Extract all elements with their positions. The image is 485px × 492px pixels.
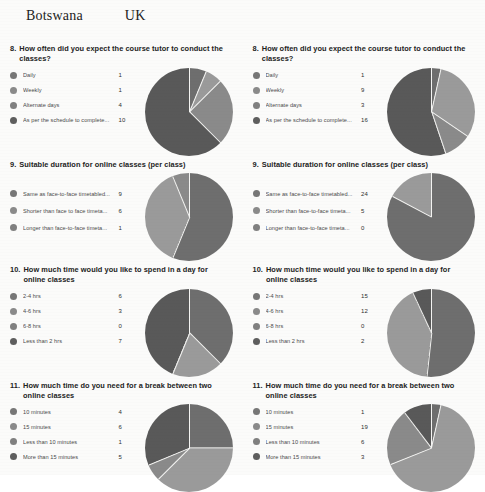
- legend-item: Shorter than face-to-face timeta...5: [253, 202, 384, 219]
- pie-chart: [387, 173, 475, 261]
- pie-slice-divider: [189, 289, 190, 333]
- question-number: 8.: [253, 44, 259, 64]
- pie-chart-container: [383, 171, 479, 261]
- question-cell-botswana: 9.Suitable duration for online classes (…: [0, 156, 243, 262]
- legend-item: 10 minutes1: [253, 404, 384, 419]
- question-row: 8.How often did you expect the course tu…: [0, 40, 485, 156]
- pie-chart: [145, 404, 233, 492]
- question-title: 9.Suitable duration for online classes (…: [10, 160, 237, 170]
- legend-bullet-icon: [253, 102, 260, 109]
- legend-item: Weekly1: [10, 83, 141, 98]
- legend-bullet-icon: [253, 207, 260, 214]
- legend-item: Longer than face-to-face timeta...1: [10, 219, 141, 236]
- question-body: Same as face-to-face timetabled...9Short…: [10, 171, 237, 261]
- legend-item: 6-8 hrs0: [10, 319, 141, 334]
- legend-value: 1: [357, 409, 383, 415]
- pie-slice-divider: [426, 333, 432, 377]
- legend-label: Alternate days: [23, 102, 115, 108]
- legend-bullet-icon: [10, 453, 17, 460]
- legend-item: Longer than face-to-face timeta...0: [253, 219, 384, 236]
- legend-value: 16: [357, 117, 383, 123]
- question-row: 11.How much time do you need for a break…: [0, 377, 485, 492]
- legend-value: 3: [357, 454, 383, 460]
- pie-chart-container: [383, 66, 479, 156]
- legend-value: 3: [357, 102, 383, 108]
- legend-item: 10 minutes4: [10, 404, 141, 419]
- legend-value: 1: [357, 72, 383, 78]
- question-cell-botswana: 10.How much time would you like to spend…: [0, 261, 243, 377]
- legend-label: 2-4 hrs: [266, 293, 358, 299]
- question-body: Daily1Weekly9Alternate days3As per the s…: [253, 66, 480, 156]
- chart-legend: 10 minutes115 minutes19Less than 10 minu…: [253, 402, 384, 464]
- pie-slice-divider: [189, 71, 207, 112]
- question-text: Suitable duration for online classes (pe…: [262, 160, 428, 170]
- pie-chart: [387, 404, 475, 492]
- legend-value: 5: [115, 454, 141, 460]
- question-cell-botswana: 8.How often did you expect the course tu…: [0, 40, 243, 156]
- legend-value: 6: [115, 208, 141, 214]
- legend-value: 19: [357, 424, 383, 430]
- question-text: Suitable duration for online classes (pe…: [19, 160, 185, 170]
- pie-slice-divider: [431, 68, 442, 111]
- legend-bullet-icon: [253, 72, 260, 79]
- legend-bullet-icon: [10, 323, 17, 330]
- legend-value: 0: [357, 225, 383, 231]
- pie-chart-container: [141, 66, 237, 156]
- legend-label: Less than 2 hrs: [23, 338, 115, 344]
- pie-chart: [145, 68, 233, 156]
- legend-item: 4-6 hrs12: [253, 304, 384, 319]
- legend-bullet-icon: [253, 293, 260, 300]
- chart-legend: 2-4 hrs154-6 hrs126-8 hrs0Less than 2 hr…: [253, 287, 384, 349]
- pie-slice-divider: [431, 289, 432, 333]
- legend-item: 2-4 hrs6: [10, 289, 141, 304]
- pie-slice-divider: [392, 196, 431, 218]
- legend-value: 6: [115, 424, 141, 430]
- pie-slice-divider: [189, 404, 190, 448]
- question-body: Same as face-to-face timetabled...24Shor…: [253, 171, 480, 261]
- legend-item: 15 minutes6: [10, 419, 141, 434]
- pie-chart-container: [383, 287, 479, 377]
- pie-slice-divider: [431, 173, 432, 217]
- legend-item: More than 15 minutes5: [10, 449, 141, 464]
- legend-item: Daily1: [10, 68, 141, 83]
- question-text: How much time do you need for a break be…: [23, 381, 228, 401]
- country-header: Botswana UK: [26, 8, 145, 24]
- pie-slice-divider: [405, 413, 433, 449]
- legend-bullet-icon: [10, 438, 17, 445]
- legend-value: 5: [357, 208, 383, 214]
- legend-bullet-icon: [253, 224, 260, 231]
- question-title: 10.How much time would you like to spend…: [253, 265, 480, 285]
- legend-label: Shorter than face to face timeta...: [23, 208, 115, 214]
- legend-label: Longer than face-to-face timeta...: [23, 225, 115, 231]
- legend-value: 10: [115, 117, 141, 123]
- chart-legend: 10 minutes415 minutes6Less than 10 minut…: [10, 402, 141, 464]
- pie-chart-container: [383, 402, 479, 492]
- legend-label: 2-4 hrs: [23, 293, 115, 299]
- legend-label: More than 15 minutes: [266, 454, 358, 460]
- question-title: 9.Suitable duration for online classes (…: [253, 160, 480, 170]
- question-body: 2-4 hrs154-6 hrs126-8 hrs0Less than 2 hr…: [253, 287, 480, 377]
- pie-slice-divider: [189, 80, 221, 112]
- chart-legend: Same as face-to-face timetabled...24Shor…: [253, 171, 384, 236]
- legend-bullet-icon: [253, 87, 260, 94]
- legend-value: 1: [115, 72, 141, 78]
- question-row: 10.How much time would you like to spend…: [0, 261, 485, 377]
- legend-item: Less than 10 minutes1: [10, 434, 141, 449]
- pie-chart: [387, 289, 475, 377]
- question-text: How much time would you like to spend in…: [23, 265, 228, 285]
- question-number: 8.: [10, 44, 16, 64]
- question-row: 9.Suitable duration for online classes (…: [0, 156, 485, 262]
- legend-value: 9: [115, 191, 141, 197]
- legend-value: 1: [115, 225, 141, 231]
- question-title: 8.How often did you expect the course tu…: [10, 44, 237, 64]
- legend-bullet-icon: [253, 338, 260, 345]
- legend-label: Less than 10 minutes: [23, 439, 115, 445]
- legend-value: 7: [115, 338, 141, 344]
- legend-label: 15 minutes: [266, 424, 358, 430]
- legend-bullet-icon: [10, 423, 17, 430]
- legend-value: 6: [115, 293, 141, 299]
- legend-value: 4: [115, 409, 141, 415]
- legend-bullet-icon: [253, 323, 260, 330]
- question-title: 8.How often did you expect the course tu…: [253, 44, 480, 64]
- question-number: 9.: [10, 160, 16, 170]
